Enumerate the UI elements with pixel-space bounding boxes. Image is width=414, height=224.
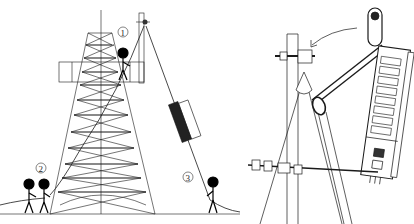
pulley-detail-illustration	[240, 0, 414, 224]
radio-unit	[360, 46, 414, 187]
hanging-pulley	[296, 72, 312, 94]
worker-2a	[24, 179, 36, 213]
worker-3	[207, 177, 218, 213]
worker-2b	[39, 179, 50, 213]
svg-text:2: 2	[39, 164, 44, 174]
label-2: 2	[36, 163, 46, 174]
sling-upper	[312, 45, 382, 100]
top-pulley-icon	[371, 12, 379, 20]
label-1: 1	[118, 27, 128, 38]
svg-text:3: 3	[186, 173, 191, 183]
tower-hoisting-panel: 1 2 3	[0, 0, 240, 224]
svg-text:1: 1	[121, 28, 126, 38]
pulley-clamp	[298, 50, 312, 63]
tower-right-leg	[112, 33, 155, 214]
tower-hoisting-illustration: 1 2 3	[0, 0, 240, 224]
label-3: 3	[183, 172, 193, 183]
pulley-icon	[143, 20, 148, 25]
pulley-detail-panel	[240, 0, 414, 224]
pointer-arrow	[312, 28, 357, 45]
hoisted-equipment	[168, 98, 200, 142]
tower-left-leg	[50, 33, 88, 214]
rope-left	[260, 80, 303, 224]
